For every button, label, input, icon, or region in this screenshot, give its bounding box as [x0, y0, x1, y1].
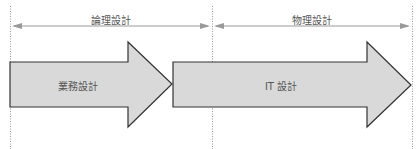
phase-label-logical: 論理設計: [91, 12, 131, 27]
phase-diagram: [0, 0, 418, 149]
arrow-label-business: 業務設計: [58, 78, 98, 93]
phase-label-physical: 物理設計: [292, 12, 332, 27]
arrow-label-it: IT 設計: [265, 78, 297, 93]
